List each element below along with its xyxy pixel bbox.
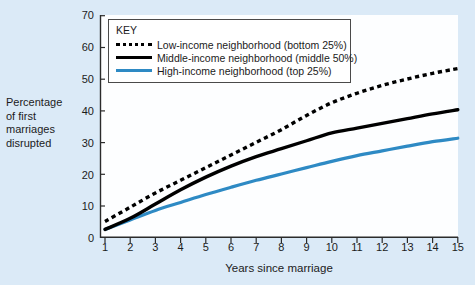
x-tick-15: 15 (448, 241, 468, 253)
x-tick-5: 5 (196, 241, 216, 253)
y-tick-0: 0 (68, 232, 94, 244)
x-tick-12: 12 (372, 241, 392, 253)
x-tick-6: 6 (221, 241, 241, 253)
dotted-line-swatch-icon (116, 39, 152, 51)
x-tick-11: 11 (347, 241, 367, 253)
y-tick-20: 20 (68, 169, 94, 181)
x-tick-10: 10 (322, 241, 342, 253)
x-axis-label: Years since marriage (100, 262, 458, 274)
y-axis-tick-labels: 70 60 50 40 30 20 10 0 (68, 0, 94, 285)
legend-item-low-income: Low-income neighborhood (bottom 25%) (116, 38, 344, 51)
y-tick-40: 40 (68, 105, 94, 117)
x-tick-8: 8 (271, 241, 291, 253)
y-tick-10: 10 (68, 200, 94, 212)
y-tick-60: 60 (68, 41, 94, 53)
x-axis-tick-labels: 1 2 3 4 5 6 7 8 9 10 11 12 13 14 15 (100, 241, 458, 257)
x-tick-9: 9 (297, 241, 317, 253)
legend-item-middle-income: Middle-income neighborhood (middle 50%) (116, 51, 344, 64)
x-tick-14: 14 (423, 241, 443, 253)
y-tick-70: 70 (68, 9, 94, 21)
legend-title: KEY (116, 24, 344, 36)
x-tick-1: 1 (95, 241, 115, 253)
x-tick-2: 2 (120, 241, 140, 253)
series-line-middle-income (105, 110, 458, 230)
x-tick-4: 4 (171, 241, 191, 253)
y-tick-30: 30 (68, 137, 94, 149)
x-tick-13: 13 (397, 241, 417, 253)
y-tick-50: 50 (68, 73, 94, 85)
x-tick-3: 3 (145, 241, 165, 253)
legend-label-high-income: High-income neighborhood (top 25%) (157, 65, 332, 77)
solid-black-line-swatch-icon (116, 52, 152, 64)
chart-legend: KEY Low-income neighborhood (bottom 25%)… (108, 19, 351, 83)
legend-label-low-income: Low-income neighborhood (bottom 25%) (157, 39, 347, 51)
x-tick-7: 7 (246, 241, 266, 253)
plot-area: KEY Low-income neighborhood (bottom 25%)… (100, 15, 458, 238)
chart-figure: that sometimes occur when the neighborho… (0, 0, 475, 285)
legend-label-middle-income: Middle-income neighborhood (middle 50%) (157, 52, 357, 64)
series-line-high-income (105, 138, 458, 229)
legend-item-high-income: High-income neighborhood (top 25%) (116, 64, 344, 77)
solid-blue-line-swatch-icon (116, 65, 152, 77)
